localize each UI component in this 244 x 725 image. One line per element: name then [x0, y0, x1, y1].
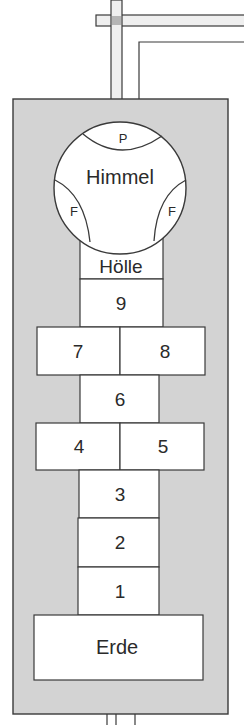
label-9: 9 [116, 293, 127, 314]
label-4: 4 [74, 436, 85, 457]
label-6: 6 [115, 389, 126, 410]
label-f-left: F [70, 204, 78, 219]
label-erde: Erde [96, 636, 138, 658]
label-2: 2 [115, 532, 126, 553]
label-hoelle: Hölle [99, 256, 142, 277]
label-p: P [119, 131, 128, 146]
l-line [139, 42, 244, 100]
label-5: 5 [158, 436, 169, 457]
label-1: 1 [115, 581, 126, 602]
hopscotch-diagram: P Himmel F F Hölle 9 7 8 6 4 5 3 2 1 Erd… [0, 0, 244, 725]
label-3: 3 [115, 484, 126, 505]
top-pipes [96, 0, 244, 100]
vertical-pipe [111, 0, 122, 100]
label-f-right: F [168, 204, 176, 219]
pipe-joint [112, 16, 121, 25]
label-8: 8 [160, 341, 171, 362]
label-7: 7 [73, 341, 84, 362]
bottom-lines [107, 714, 135, 725]
label-himmel: Himmel [86, 166, 154, 188]
